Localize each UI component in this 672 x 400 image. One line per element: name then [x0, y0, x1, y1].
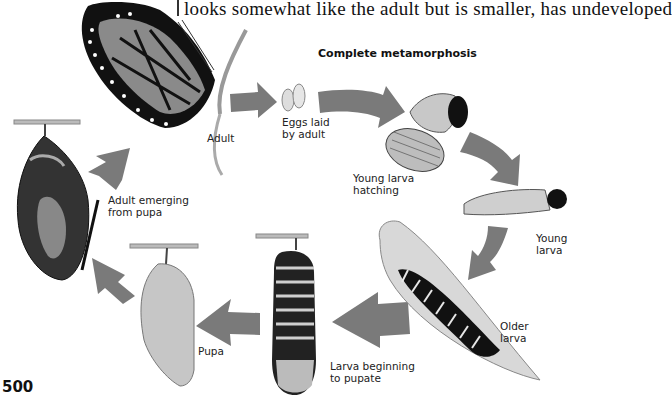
label-pupa: Pupa — [198, 345, 224, 357]
arrow-pupating-to-pupa-icon — [196, 299, 260, 346]
arrow-eggs-to-hatching-icon — [318, 86, 405, 128]
young-larva-icon — [464, 189, 567, 215]
page-number: 500 — [2, 378, 33, 396]
label-eggs: Eggs laid by adult — [282, 116, 330, 140]
label-young-larva-hatching: Young larva hatching — [353, 172, 414, 196]
arrow-young-larva-to-older-icon — [468, 226, 508, 280]
arrow-older-to-pupating-icon — [332, 292, 410, 348]
label-young-larva: Young larva — [536, 232, 567, 256]
arrow-adult-to-eggs-icon — [230, 82, 277, 118]
diagram-title: Complete metamorphosis — [318, 47, 477, 60]
arrow-pupa-to-emerging-icon — [92, 258, 135, 304]
label-larva-pupating: Larva beginning to pupate — [330, 360, 415, 384]
arrow-emerging-to-adult-icon — [88, 148, 130, 190]
eggs-icon — [282, 84, 305, 111]
pupa-icon — [130, 244, 198, 386]
older-larva-icon — [379, 221, 540, 380]
label-adult-emerging: Adult emerging from pupa — [108, 194, 189, 218]
pupating-larva-icon — [256, 234, 316, 395]
arrow-hatching-to-young-larva-icon — [460, 132, 520, 186]
emerging-adult-icon — [14, 120, 98, 280]
label-adult: Adult — [207, 132, 234, 144]
adult-butterfly-icon — [82, 2, 246, 175]
label-older-larva: Older larva — [500, 320, 529, 344]
